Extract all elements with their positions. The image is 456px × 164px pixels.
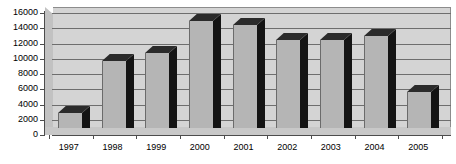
bar[interactable] <box>189 21 213 128</box>
bar[interactable] <box>102 61 126 128</box>
x-axis-tick-label: 1998 <box>91 142 135 152</box>
bar-chart: 0200040006000800010000120001400016000 19… <box>0 0 456 164</box>
bar-front-face <box>189 21 213 128</box>
y-axis-tick-label: 14000 <box>0 23 38 32</box>
bar-side-face <box>126 61 134 128</box>
y-axis-tick-label: 0 <box>0 130 38 139</box>
bar[interactable] <box>407 92 431 128</box>
bar-front-face <box>407 92 431 128</box>
bar-side-face <box>82 113 90 128</box>
x-axis-tick-label: 2003 <box>309 142 353 152</box>
bar-side-face <box>344 40 352 128</box>
x-axis-tick-label: 2005 <box>396 142 440 152</box>
x-axis-tick <box>311 135 312 139</box>
x-axis-tick <box>442 135 443 139</box>
y-axis-tick <box>40 135 45 136</box>
y-axis-tick-label: 8000 <box>0 69 38 78</box>
bar-side-face <box>257 25 265 128</box>
bar-front-face <box>145 53 169 128</box>
bar-series <box>45 7 451 135</box>
x-axis-tick <box>224 135 225 139</box>
x-axis-tick-label: 2004 <box>353 142 397 152</box>
x-axis-tick-label: 2002 <box>265 142 309 152</box>
bar-front-face <box>320 40 344 128</box>
bar-side-face <box>169 53 177 128</box>
x-axis-tick <box>355 135 356 139</box>
x-axis-tick-label: 1999 <box>134 142 178 152</box>
x-axis-tick <box>398 135 399 139</box>
bar[interactable] <box>276 40 300 128</box>
bar-side-face <box>300 40 308 128</box>
bar[interactable] <box>364 36 388 128</box>
bar[interactable] <box>58 113 82 128</box>
bar-front-face <box>102 61 126 128</box>
x-axis-tick-label: 2001 <box>222 142 266 152</box>
y-axis-tick-label: 16000 <box>0 8 38 17</box>
x-axis-tick <box>49 135 50 139</box>
bar[interactable] <box>320 40 344 128</box>
y-axis-labels: 0200040006000800010000120001400016000 <box>0 0 38 140</box>
y-axis-tick-label: 10000 <box>0 54 38 63</box>
bar-side-face <box>388 36 396 128</box>
bar-front-face <box>58 113 82 128</box>
bar-front-face <box>276 40 300 128</box>
x-axis-tick <box>93 135 94 139</box>
x-axis-tick <box>267 135 268 139</box>
bar[interactable] <box>233 25 257 128</box>
x-axis-labels: 199719981999200020012002200320042005 <box>45 142 451 156</box>
y-axis-tick-label: 6000 <box>0 84 38 93</box>
bar-side-face <box>431 92 439 128</box>
bar-side-face <box>213 21 221 128</box>
bar-front-face <box>364 36 388 128</box>
y-axis-tick-label: 12000 <box>0 39 38 48</box>
x-axis-tick-label: 2000 <box>178 142 222 152</box>
x-axis-tick <box>136 135 137 139</box>
x-axis-tick <box>180 135 181 139</box>
y-axis-tick-label: 4000 <box>0 100 38 109</box>
bar[interactable] <box>145 53 169 128</box>
bar-front-face <box>233 25 257 128</box>
x-axis-tick-label: 1997 <box>47 142 91 152</box>
y-axis-tick-label: 2000 <box>0 115 38 124</box>
gridline <box>52 135 451 136</box>
